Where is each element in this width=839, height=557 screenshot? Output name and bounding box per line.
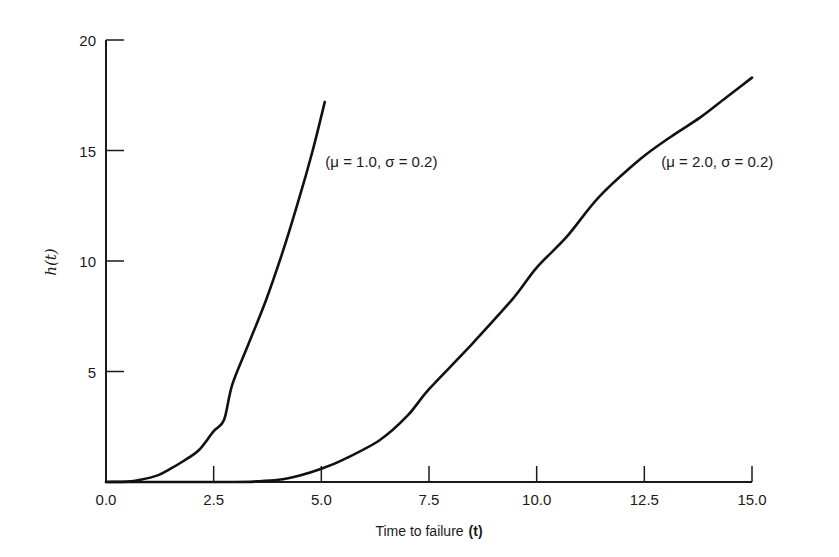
curves [106, 78, 752, 482]
series-curve-1 [106, 102, 325, 482]
labels: 0.02.55.07.510.012.515.05101520Time to f… [42, 32, 773, 539]
x-tick-label: 15.0 [737, 491, 766, 508]
x-tick-label: 5.0 [311, 491, 332, 508]
x-tick-label: 0.0 [96, 491, 117, 508]
series-curve-2 [106, 78, 752, 482]
axes [106, 40, 752, 482]
x-tick-label: 2.5 [203, 491, 224, 508]
x-axis-title-var: (t) [469, 523, 483, 539]
hazard-rate-chart: 0.02.55.07.510.012.515.05101520Time to f… [0, 0, 839, 557]
x-axis-title: Time to failure(t) [375, 523, 482, 539]
y-tick-label: 10 [79, 253, 96, 270]
x-tick-label: 7.5 [419, 491, 440, 508]
x-axis-title-text: Time to failure [375, 523, 463, 539]
y-tick-label: 15 [79, 143, 96, 160]
x-tick-label: 10.0 [522, 491, 551, 508]
y-tick-label: 20 [79, 32, 96, 49]
x-tick-label: 12.5 [630, 491, 659, 508]
series-label-1: (μ = 1.0, σ = 0.2) [325, 153, 437, 170]
y-tick-label: 5 [88, 364, 96, 381]
y-axis-title: h(t) [42, 248, 60, 276]
series-label-2: (μ = 2.0, σ = 0.2) [661, 153, 773, 170]
